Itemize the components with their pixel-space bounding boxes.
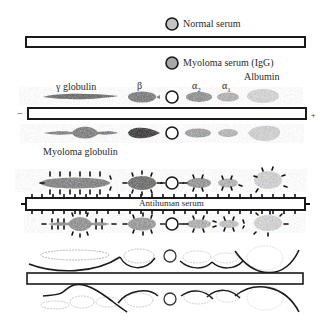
- lower-precipitin-well: [166, 218, 178, 230]
- myeloma-alpha2-band: [185, 129, 211, 138]
- beta-band: [128, 92, 156, 103]
- myeloma-serum-label: Myoloma serum (IgG): [183, 57, 274, 68]
- antihuman-serum-label: Antihuman serum: [139, 198, 204, 209]
- arc-upper-well: [164, 250, 176, 262]
- top-trough: [26, 37, 305, 47]
- gamma-globulin-band: [43, 94, 118, 99]
- normal-serum-well-icon: [166, 18, 178, 30]
- immunoelectrophoresis-diagram: [0, 0, 333, 322]
- beta-label: β: [137, 80, 142, 91]
- arc-lower-well: [164, 293, 176, 305]
- alpha2-label: α2: [192, 80, 201, 96]
- myeloma-gamma-tail-band: [44, 127, 118, 139]
- anode-sign: +: [311, 110, 316, 121]
- albumin-label: Albumin: [244, 71, 280, 82]
- upper-precipitin-well: [166, 177, 178, 189]
- myeloma-serum-sample-well: [166, 127, 178, 139]
- normal-serum-sample-well: [166, 91, 178, 103]
- alpha2-subscript: 2: [197, 86, 201, 94]
- myeloma-serum-well-icon: [166, 57, 178, 69]
- gamma-globulin-label: γ globulin: [56, 81, 96, 92]
- myeloma-globulin-label: Myoloma globulin: [43, 146, 118, 157]
- alpha1-subscript: 1: [227, 86, 231, 94]
- myeloma-serum-fractions: [44, 126, 280, 141]
- myeloma-albumin-band: [248, 126, 280, 141]
- myeloma-m-spike-band: [128, 128, 160, 139]
- precipitin-lower-row: [42, 211, 288, 237]
- normal-serum-label: Normal serum: [183, 18, 241, 29]
- albumin-band: [247, 89, 279, 103]
- myeloma-alpha1-band: [218, 129, 238, 137]
- precipitin-upper-row: [40, 167, 287, 195]
- precipitin-arcs-upper: [29, 246, 299, 273]
- cathode-sign: −: [17, 108, 23, 119]
- middle-trough: [28, 108, 306, 119]
- bottom-trough: [27, 273, 303, 284]
- alpha1-label: α1: [222, 80, 231, 96]
